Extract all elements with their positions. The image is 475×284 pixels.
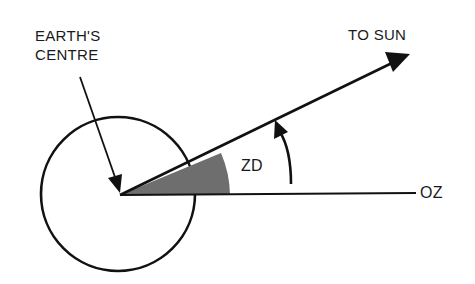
oz-label: OZ <box>420 183 443 202</box>
earth-centre-label-line1: EARTH'S <box>35 26 101 45</box>
sun-arrowhead-icon <box>385 52 410 72</box>
zd-angle-arc <box>280 132 291 184</box>
earth-centre-pointer-line <box>80 77 116 180</box>
earth-centre-label: EARTH'S CENTRE <box>35 26 101 64</box>
to-sun-label: TO SUN <box>348 25 406 44</box>
zd-label: ZD <box>241 156 263 175</box>
earth-centre-label-line2: CENTRE <box>35 45 101 64</box>
earth-centre-arrowhead-icon <box>108 174 122 193</box>
zd-angle-wedge <box>120 153 230 195</box>
